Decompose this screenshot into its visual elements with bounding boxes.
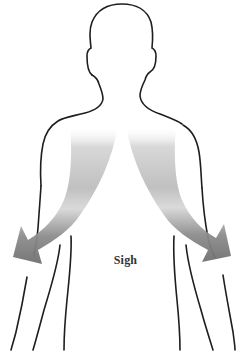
sigh-body-diagram <box>0 0 243 359</box>
sigh-label: Sigh <box>0 253 243 268</box>
left-forearm-outline <box>11 277 27 350</box>
right-downward-arrow-icon <box>126 126 231 262</box>
right-shoulder-outline <box>183 125 202 188</box>
left-downward-arrow-icon <box>13 126 118 264</box>
right-forearm-outline <box>223 275 235 350</box>
head-outline <box>87 4 182 124</box>
